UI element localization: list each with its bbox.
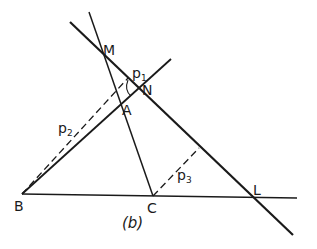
label-C: C (147, 200, 157, 216)
line-BA-extended (22, 59, 171, 194)
label-L: L (253, 182, 261, 198)
angle-arc-A (127, 80, 131, 96)
perp-p3 (153, 148, 199, 196)
geometry-diagram: M N A B C L p1 p2 p3 (b) (0, 0, 317, 249)
label-p3: p3 (177, 167, 192, 185)
perp-p2 (22, 78, 128, 194)
label-A: A (122, 102, 132, 118)
label-p2: p2 (58, 120, 73, 138)
label-p1: p1 (132, 65, 147, 83)
figure-caption: (b) (122, 214, 143, 232)
label-B: B (14, 198, 24, 214)
label-M: M (103, 42, 115, 58)
label-N: N (142, 82, 152, 98)
